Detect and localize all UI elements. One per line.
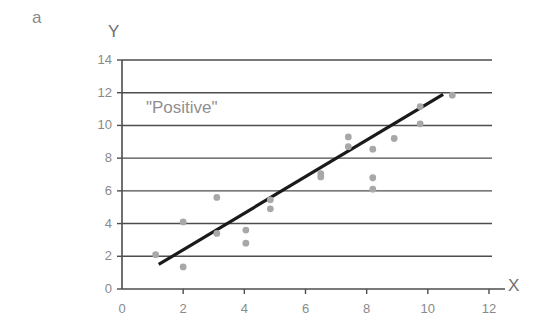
y-tick-label: 4 [86, 216, 112, 231]
data-point [369, 174, 376, 181]
x-tick-label: 0 [107, 301, 137, 316]
x-tick-label: 10 [413, 301, 443, 316]
data-point [213, 194, 220, 201]
y-tick-label: 0 [86, 281, 112, 296]
plot-canvas [0, 0, 538, 335]
y-tick-label: 2 [86, 248, 112, 263]
data-point [417, 103, 424, 110]
data-point [267, 196, 274, 203]
trend-line [159, 94, 443, 264]
data-point [345, 143, 352, 150]
y-tick-label: 8 [86, 150, 112, 165]
y-tick-label: 12 [86, 85, 112, 100]
data-point [242, 227, 249, 234]
y-tick-label: 6 [86, 183, 112, 198]
y-tick-label: 10 [86, 117, 112, 132]
data-point [369, 186, 376, 193]
data-point [345, 133, 352, 140]
data-point [267, 205, 274, 212]
data-point [152, 251, 159, 258]
data-point [417, 120, 424, 127]
data-point [213, 230, 220, 237]
y-tick-label: 14 [86, 52, 112, 67]
x-tick-label: 6 [291, 301, 321, 316]
x-tick-label: 4 [229, 301, 259, 316]
x-tick-label: 8 [352, 301, 382, 316]
scatter-plot-figure: a Y X "Positive" 02468101214024681012 [0, 0, 538, 335]
data-point [369, 146, 376, 153]
gridlines [122, 60, 492, 256]
data-point [180, 219, 187, 226]
data-point [242, 240, 249, 247]
data-point [391, 135, 398, 142]
data-point [317, 174, 324, 181]
x-tick-label: 2 [168, 301, 198, 316]
data-points [152, 92, 455, 271]
data-point [449, 92, 456, 99]
x-tick-label: 12 [474, 301, 504, 316]
data-point [180, 264, 187, 271]
